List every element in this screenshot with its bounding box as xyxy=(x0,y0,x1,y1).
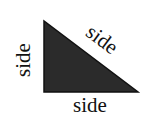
left-leg-label: side xyxy=(11,43,35,77)
diagram-svg: side side side xyxy=(0,0,143,120)
triangle-diagram: side side side xyxy=(0,0,143,120)
base-label: side xyxy=(73,93,107,117)
